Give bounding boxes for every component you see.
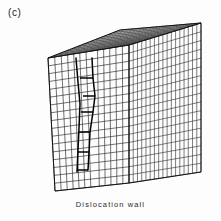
figure-root: (c) Dislocation wall	[0, 0, 221, 221]
right-face-mesh	[129, 23, 201, 183]
top-face-mesh	[48, 23, 201, 58]
figure-caption: Dislocation wall	[0, 200, 221, 209]
mesh-block-diagram	[0, 0, 221, 221]
